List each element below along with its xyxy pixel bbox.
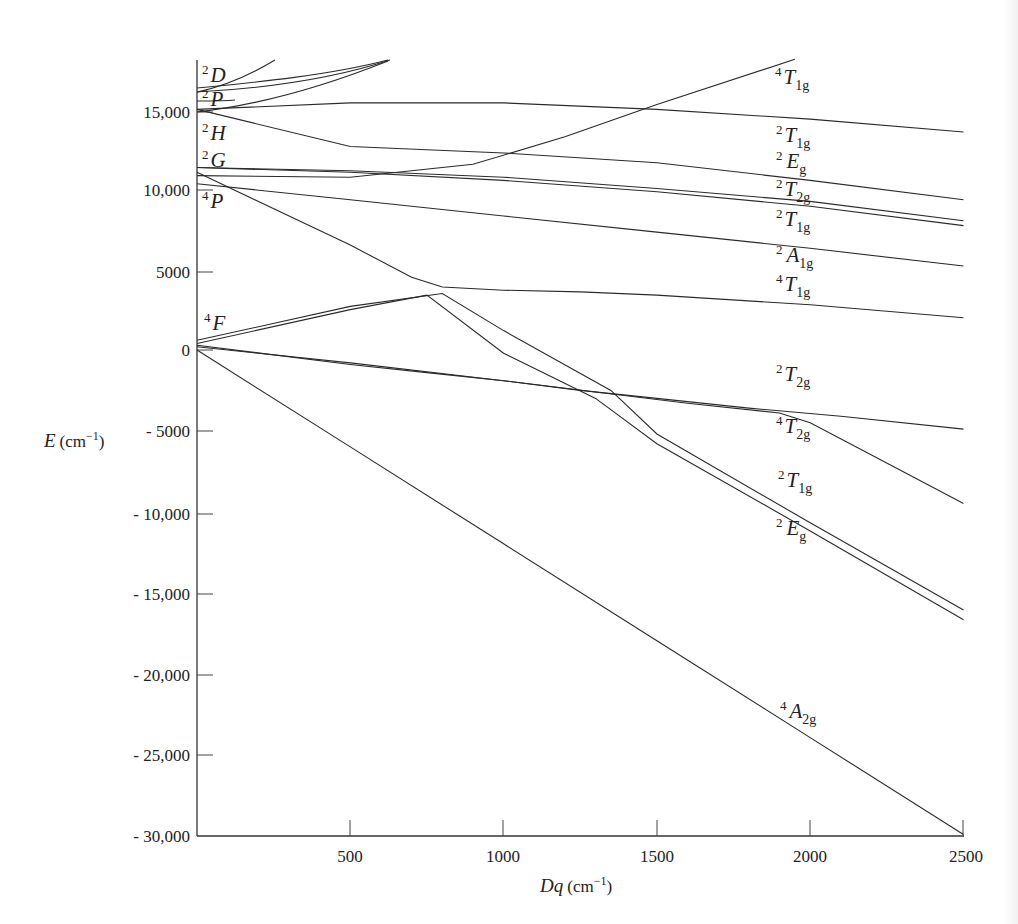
term-label-2H: 2H [202,120,228,145]
curve-4a2g [197,350,964,835]
curve-2t1g-2g [197,168,964,226]
y-tick-label: - 10,000 [133,505,190,524]
y-axis-title: E(cm−1) [43,429,105,451]
state-label-2T1g-a: 2T1g [776,122,810,151]
state-label-4T1g-lower: 4T1g [776,271,810,300]
curve-4t1g-4f [197,172,964,317]
term-label-2P: 2P [202,86,224,111]
curve-4t2g [197,347,964,504]
y-tick-label: 0 [182,341,191,360]
x-tick-labels: 500 1000 1500 2000 2500 [337,847,983,866]
curve-2t2g-2g [197,168,964,221]
curves [197,59,964,834]
x-ticks [350,820,963,836]
state-label-2Eg-a: 2Eg [776,148,806,177]
y-tick-label: 15,000 [143,103,190,122]
y-tick-label: - 15,000 [133,585,190,604]
x-tick-label: 1500 [640,847,674,866]
y-tick-label: - 20,000 [133,666,190,685]
state-label-2A1g: 2A1g [776,242,813,271]
state-label-2T2g-b: 2T2g [776,361,810,390]
upper-doublet-curves [197,60,390,112]
state-label-2Eg-b: 2Eg [776,515,806,544]
term-label-4P: 4P [202,188,224,213]
curve-2a1g [197,184,964,266]
x-tick-label: 2000 [793,847,827,866]
y-tick-label: - 25,000 [133,746,190,765]
free-ion-term-labels: 2D 2P 2H 2G 4P 4F [202,62,228,335]
y-tick-labels: 15,000 10,000 5000 0 - 5000 - 10,000 - 1… [133,103,190,846]
y-tick-label: - 5000 [146,422,190,441]
curve-4t1g-4p [197,59,795,177]
x-tick-label: 2500 [949,847,983,866]
term-label-2D: 2D [202,62,226,87]
curve-2t1g-2h [197,103,964,132]
state-label-2T1g-c: 2T1g [778,467,812,496]
state-label-2T1g-b: 2T1g [776,206,810,235]
state-label-4A2g: 4A2g [780,698,816,727]
curve-2eg [197,295,964,620]
y-tick-label: 10,000 [143,181,190,200]
x-axis-title: Dq(cm−1) [539,874,612,896]
x-tick-label: 500 [337,847,363,866]
curve-2t1g-low [197,294,964,611]
state-labels: 4T1g 2T1g 2Eg 2T2g 2T1g 2A1g 4T1g 2T2g 4… [775,64,816,727]
page-edge-shadow [1004,0,1018,924]
term-label-4F: 4F [204,310,226,335]
x-tick-label: 1000 [486,847,520,866]
state-label-4T1g-upper: 4T1g [775,64,809,93]
curve-2t2g-low [197,345,964,429]
y-tick-label: - 30,000 [133,827,190,846]
energy-level-diagram: 15,000 10,000 5000 0 - 5000 - 10,000 - 1… [0,0,1018,924]
y-tick-label: 5000 [156,263,190,282]
state-label-4T2g: 4T2g [776,413,810,442]
